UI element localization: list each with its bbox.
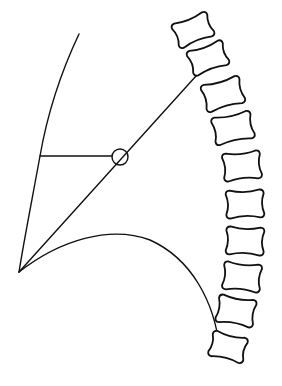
vertebra	[186, 39, 231, 76]
vertebra	[200, 75, 246, 113]
vertebra	[171, 11, 216, 49]
vertebra	[215, 294, 257, 328]
vertebra	[222, 261, 263, 293]
curved-vertical-line	[19, 34, 79, 272]
center-circle-marker	[112, 149, 128, 165]
spine-diagram	[0, 0, 282, 386]
vertebral-column	[171, 11, 265, 364]
diagonal-line	[19, 76, 196, 272]
vertebra	[207, 330, 248, 364]
vertebra	[226, 226, 265, 255]
vertebra	[222, 150, 263, 182]
lower-arc	[19, 234, 220, 352]
vertebra	[226, 189, 265, 218]
vertebra	[211, 110, 256, 146]
